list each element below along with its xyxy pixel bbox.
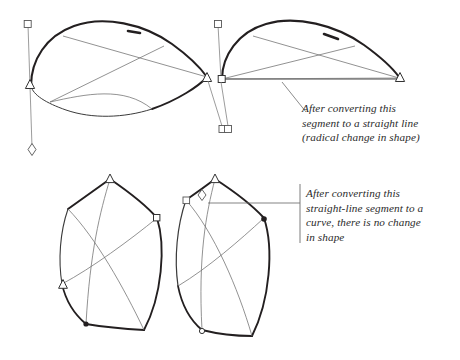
bottom-right-top-right-edge [215, 179, 264, 218]
bottom-right-left-lower-curve [178, 286, 202, 330]
bottom-left-interior-line-a [86, 179, 110, 324]
bottom-left-interior-line-d [62, 218, 157, 284]
dot-anchor-bottom-left-bottom[interactable] [83, 321, 88, 326]
top-left-outline-heavy-right [152, 77, 207, 109]
triangle-anchor-bottom-left-left[interactable] [59, 280, 68, 289]
bottom-left-left-lower-curve [62, 284, 86, 324]
bottom-right-interior-line-a [201, 179, 215, 330]
bottom-right-interior-line-c [178, 218, 264, 286]
dot-anchor-bottom-right-corner[interactable] [261, 216, 267, 222]
top-left-handle-stem-upper [28, 25, 30, 86]
shape-top-left [24, 21, 226, 156]
top-left-right-handle-stem [208, 81, 222, 126]
top-right-corner-handle-stem [221, 82, 228, 126]
bottom-left-bottom-edge [86, 324, 144, 330]
square-handle-bottom-right-curve[interactable] [183, 197, 190, 204]
diamond-handle-top-left-lower[interactable] [28, 144, 36, 156]
figure-canvas: After converting this segment to a strai… [0, 0, 460, 360]
bottom-right-right-edge [252, 218, 269, 336]
shape-bottom-right [176, 174, 269, 336]
bottom-left-interior-line-b [68, 209, 157, 230]
bottom-left-straight-segment [68, 179, 110, 209]
square-anchor-top-right-corner[interactable] [218, 76, 225, 83]
top-right-interior-line-a [253, 36, 399, 78]
triangle-anchor-bottom-right-top[interactable] [211, 174, 220, 183]
top-right-interior-line-b [222, 46, 355, 79]
bottom-right-interior-line-b [186, 200, 252, 336]
top-left-curve-tick [128, 31, 140, 33]
top-left-bottom-curve [31, 86, 152, 116]
bottom-left-interior-line-c [68, 209, 144, 330]
square-anchor-bottom-left-corner[interactable] [154, 215, 160, 221]
bottom-left-right-edge [144, 218, 162, 330]
top-right-curve-tick [324, 34, 338, 39]
top-left-interior-line-c [50, 94, 152, 109]
shape-bottom-left [59, 174, 162, 330]
dot-anchor-bottom-right-bottom[interactable] [199, 328, 204, 333]
callout-2-leader [208, 184, 300, 243]
triangle-anchor-bottom-left-top[interactable] [106, 174, 115, 183]
callout-caption-2: After converting this straight-line segm… [306, 186, 460, 244]
bottom-left-left-curve [60, 209, 68, 284]
vector-artwork [0, 0, 460, 360]
square-handle-top-right-upper[interactable] [215, 21, 222, 28]
square-handle-top-left-upper[interactable] [24, 21, 31, 28]
top-left-interior-line-a [63, 36, 207, 77]
square-handle-top-right-lower[interactable] [225, 126, 232, 133]
top-left-handle-stem-lower [30, 86, 32, 147]
triangle-anchor-top-left[interactable] [25, 80, 34, 89]
bottom-left-top-right-edge [110, 179, 157, 218]
callout-caption-1: After converting this segment to a strai… [302, 101, 458, 145]
top-left-outline-heavy [31, 21, 207, 86]
bottom-right-left-curve [176, 200, 186, 286]
bottom-right-bottom-edge [202, 330, 252, 336]
top-right-handle-stem-upper [218, 25, 221, 79]
